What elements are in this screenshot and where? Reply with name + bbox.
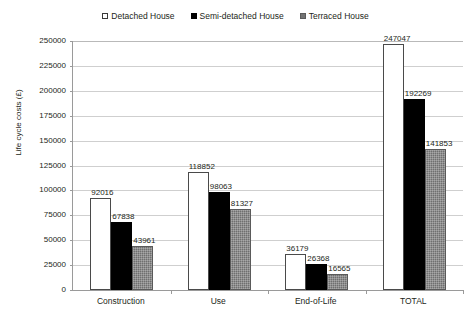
y-axis-tick-mark bbox=[70, 215, 73, 216]
y-axis-tick-label: 0 bbox=[6, 286, 66, 294]
bar-group-use: 1188529806381327 bbox=[188, 41, 251, 290]
bar-value-label: 118852 bbox=[189, 162, 215, 171]
y-axis-tick-mark bbox=[70, 66, 73, 67]
y-axis-tick-mark bbox=[70, 166, 73, 167]
y-axis-tick-label: 25000 bbox=[6, 261, 66, 269]
y-axis-tick-label: 200000 bbox=[6, 87, 66, 95]
x-axis-category-label: Construction bbox=[72, 296, 170, 306]
legend-label-semi-detached-house: Semi-detached House bbox=[200, 11, 284, 21]
bar-terraced-use bbox=[230, 209, 251, 290]
bar-terraced-total bbox=[425, 149, 446, 290]
x-axis-category-label: End-of-Life bbox=[267, 296, 365, 306]
y-axis-tick-label: 250000 bbox=[6, 37, 66, 45]
x-axis-tick-mark bbox=[171, 290, 172, 294]
y-axis-tick-mark bbox=[70, 91, 73, 92]
y-axis-tick-mark bbox=[70, 265, 73, 266]
y-axis-tick-mark bbox=[70, 116, 73, 117]
x-axis-category-label: TOTAL bbox=[365, 296, 463, 306]
bar-value-label: 92016 bbox=[91, 188, 113, 197]
x-axis-tick-mark bbox=[463, 290, 464, 294]
x-axis-tick-mark bbox=[366, 290, 367, 294]
bar-semi-total bbox=[404, 99, 425, 290]
legend-label-detached-house: Detached House bbox=[111, 11, 174, 21]
y-axis-tick-label: 75000 bbox=[6, 211, 66, 219]
legend-item-detached-house: Detached House bbox=[102, 11, 174, 21]
bar-semi-end-of-life bbox=[306, 264, 327, 290]
bar-value-label: 26368 bbox=[307, 254, 329, 263]
plot-area: 9201667838439611188529806381327361792636… bbox=[72, 41, 463, 291]
bar-detached-use bbox=[188, 172, 209, 290]
legend-item-terraced-house: Terraced House bbox=[300, 11, 369, 21]
y-axis-tick-mark bbox=[70, 141, 73, 142]
x-axis-tick-mark bbox=[268, 290, 269, 294]
bar-value-label: 16565 bbox=[328, 264, 350, 273]
bar-value-label: 141853 bbox=[426, 139, 453, 148]
bar-group-end-of-life: 361792636816565 bbox=[285, 41, 348, 290]
legend-swatch-filled-square-icon bbox=[191, 13, 197, 19]
y-axis-tick-mark bbox=[70, 240, 73, 241]
bar-detached-total bbox=[383, 44, 404, 290]
bar-value-label: 43961 bbox=[133, 236, 155, 245]
y-axis-tick-mark bbox=[70, 190, 73, 191]
bar-semi-construction bbox=[111, 222, 132, 290]
y-axis-tick-label: 225000 bbox=[6, 62, 66, 70]
bar-value-label: 98063 bbox=[210, 182, 232, 191]
bar-value-label: 192269 bbox=[405, 89, 432, 98]
y-axis-tick-label: 125000 bbox=[6, 162, 66, 170]
y-axis-tick-label: 150000 bbox=[6, 137, 66, 145]
x-axis-category-label: Use bbox=[170, 296, 268, 306]
bar-group-construction: 920166783843961 bbox=[90, 41, 153, 290]
y-axis-tick-mark bbox=[70, 290, 73, 291]
bar-detached-construction bbox=[90, 198, 111, 290]
bar-value-label: 247047 bbox=[384, 34, 411, 43]
bar-detached-end-of-life bbox=[285, 254, 306, 290]
legend-label-terraced-house: Terraced House bbox=[309, 11, 369, 21]
bar-terraced-construction bbox=[132, 246, 153, 290]
bar-value-label: 81327 bbox=[231, 199, 253, 208]
y-axis-tick-mark bbox=[70, 41, 73, 42]
bar-value-label: 36179 bbox=[286, 244, 308, 253]
bar-chart: Detached House Semi-detached House Terra… bbox=[0, 0, 471, 323]
legend-swatch-open-square-icon bbox=[102, 13, 108, 19]
y-axis-tick-label: 175000 bbox=[6, 112, 66, 120]
bar-terraced-end-of-life bbox=[327, 274, 348, 290]
bar-value-label: 67838 bbox=[112, 212, 134, 221]
bar-group-total: 247047192269141853 bbox=[383, 41, 446, 290]
y-axis-tick-label: 100000 bbox=[6, 186, 66, 194]
legend-item-semi-detached-house: Semi-detached House bbox=[191, 11, 284, 21]
y-axis-tick-label: 50000 bbox=[6, 236, 66, 244]
legend-swatch-hatched-square-icon bbox=[300, 13, 306, 19]
bar-semi-use bbox=[209, 192, 230, 290]
chart-legend: Detached House Semi-detached House Terra… bbox=[0, 11, 471, 21]
